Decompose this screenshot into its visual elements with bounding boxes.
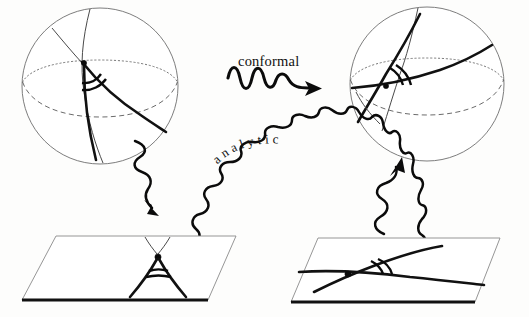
sphere-right-outline	[350, 7, 504, 161]
sphere-right	[350, 7, 504, 161]
projection-left-arrow-head	[144, 200, 159, 216]
plane-right	[291, 238, 500, 302]
label-analytic: analytic	[209, 131, 282, 166]
label-analytic-textpath: analytic	[209, 131, 282, 166]
projection-right-wave	[375, 167, 396, 234]
sphere-left-intersection-point	[81, 60, 86, 65]
conformal-wavy-arrow	[228, 68, 322, 97]
sphere-left	[22, 8, 178, 164]
diagram-canvas: conformal analytic	[0, 0, 529, 317]
plane-left	[22, 236, 236, 300]
label-conformal: conformal	[238, 53, 299, 69]
projection-arrow-up-right	[375, 157, 405, 234]
figure-root: conformal analytic	[0, 0, 529, 317]
conformal-arrow-wave	[228, 68, 308, 89]
projection-right-arrow-head	[390, 157, 405, 176]
plane-left-face	[22, 236, 236, 300]
sphere-right-intersection-point	[383, 83, 388, 88]
plane-right-intersection-point	[345, 271, 351, 277]
